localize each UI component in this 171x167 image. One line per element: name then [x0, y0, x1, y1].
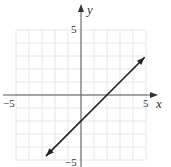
- x-max-label: 5: [143, 97, 149, 109]
- y-axis-label: y: [85, 2, 93, 17]
- x-axis-label: x: [155, 96, 162, 111]
- y-min-label: −5: [65, 156, 77, 167]
- y-max-label: 5: [71, 23, 77, 35]
- y-axis: [78, 4, 84, 167]
- data-line: [46, 57, 145, 156]
- x-min-label: −5: [3, 97, 15, 109]
- y-axis-arrow-icon: [78, 4, 84, 12]
- coordinate-plane: −5 5 x 5 −5 y: [0, 0, 171, 167]
